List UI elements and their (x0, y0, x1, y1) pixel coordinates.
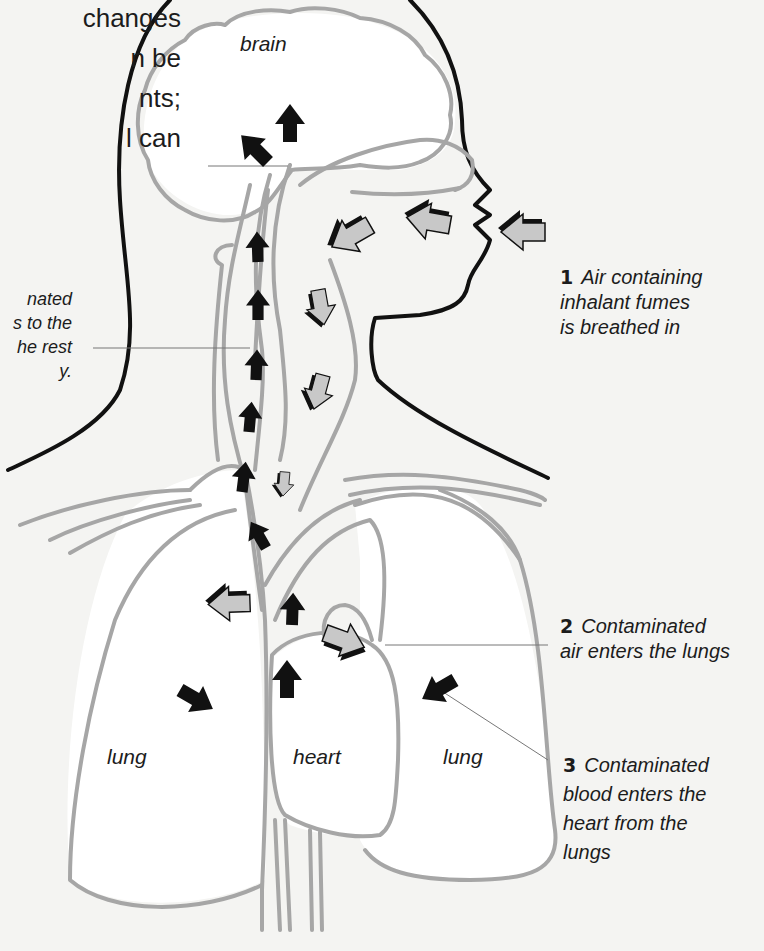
air-arrow-windpipe-1 (301, 287, 339, 330)
air-arrow-intake (498, 210, 545, 250)
left-caption-line: y. (0, 359, 72, 383)
caption-line: air enters the lungs (560, 639, 730, 664)
caption-1: 1Air containing inhalant fumes is breath… (560, 265, 702, 340)
caption-2: 2Contaminated air enters the lungs (560, 614, 730, 664)
caption-line: blood enters the (563, 780, 709, 809)
caption-line: Contaminated (584, 754, 709, 776)
air-arrow-nose (401, 195, 454, 243)
caption-line: inhalant fumes (560, 290, 702, 315)
inhalant-pathway-diagram: changes n be nts; l can nated s to the h… (0, 0, 764, 951)
intro-line: changes (0, 0, 181, 38)
blood-arrow-neck-3 (244, 349, 269, 380)
caption-number: 3 (563, 754, 576, 776)
label-heart: heart (293, 745, 341, 769)
blood-arrow-neck-1 (245, 231, 270, 262)
air-arrow-throat (318, 206, 379, 264)
label-lung-right: lung (443, 745, 483, 769)
label-brain: brain (240, 32, 287, 56)
caption-line: heart from the (563, 809, 709, 838)
caption-line: Contaminated (581, 615, 706, 637)
caption-line: is breathed in (560, 315, 702, 340)
caption-line: Air containing (581, 266, 702, 288)
intro-line: nts; (0, 78, 181, 118)
intro-line: l can (0, 118, 181, 158)
left-caption-line: he rest (0, 335, 72, 359)
left-caption-line: s to the (0, 311, 72, 335)
left-caption-line: nated (0, 287, 72, 311)
caption-3: 3Contaminated blood enters the heart fro… (563, 751, 709, 867)
caption-line: lungs (563, 838, 709, 867)
intro-line: n be (0, 38, 181, 78)
air-arrow-windpipe-3 (271, 471, 295, 499)
caption-number: 1 (560, 266, 573, 288)
caption-number: 2 (560, 615, 573, 637)
label-lung-left: lung (107, 745, 147, 769)
blood-arrow-neck-2 (246, 290, 270, 320)
left-caption: nated s to the he rest y. (0, 287, 72, 383)
intro-paragraph: changes n be nts; l can (0, 0, 181, 158)
air-arrow-windpipe-2 (296, 370, 337, 415)
